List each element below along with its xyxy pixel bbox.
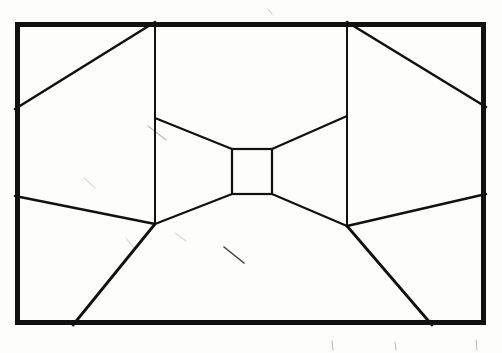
line-diagram <box>0 0 502 353</box>
paper-background <box>0 0 502 353</box>
diagram-canvas <box>0 0 502 353</box>
